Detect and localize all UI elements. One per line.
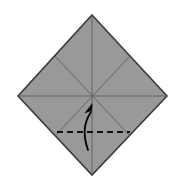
origami-diagram-container — [0, 0, 181, 184]
origami-diagram-svg — [0, 0, 181, 184]
